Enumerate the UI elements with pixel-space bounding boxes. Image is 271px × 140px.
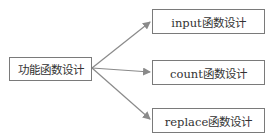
target-node-replace: replace函数设计	[152, 108, 265, 133]
arrow-to-replace	[92, 68, 150, 119]
arrow-to-input	[92, 22, 150, 68]
target-node-input: input函数设计	[152, 9, 265, 34]
target-node-label: count函数设计	[170, 65, 247, 81]
target-node-count: count函数设计	[152, 60, 265, 85]
source-node-label: 功能函数设计	[18, 61, 84, 77]
target-node-label: replace函数设计	[165, 113, 252, 129]
source-node: 功能函数设计	[9, 57, 92, 81]
target-node-label: input函数设计	[171, 14, 245, 30]
arrow-to-count	[92, 68, 150, 72]
